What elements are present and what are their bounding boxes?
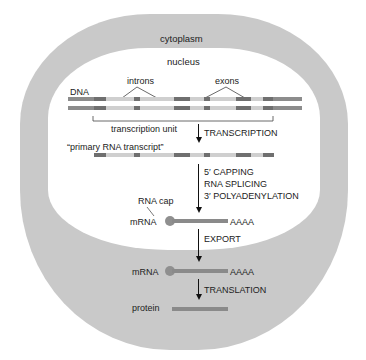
polyA-nucleus-label: AAAA: [230, 217, 254, 227]
arrow-head-icon: [196, 256, 202, 262]
processing-arrow: [198, 164, 199, 208]
rna-cap-label: RNA cap: [138, 196, 174, 206]
primary-rna-transcript: [94, 153, 274, 157]
polyA-cytoplasm-label: AAAA: [230, 267, 254, 277]
mrna-nucleus-label: mRNA: [130, 217, 157, 227]
protein-label: protein: [132, 303, 160, 313]
mrna-cytoplasm-label: mRNA: [132, 267, 159, 277]
export-arrow: [198, 229, 199, 257]
mrna-nucleus: [172, 219, 228, 223]
arrow-head-icon: [196, 137, 202, 143]
translation-step: TRANSLATION: [204, 285, 266, 295]
pointer-lines: [0, 0, 366, 360]
capping-step: 5′ CAPPING: [204, 167, 254, 177]
polyadenylation-step: 3′ POLYADENYLATION: [204, 191, 299, 201]
dna-strand-bottom: [68, 106, 302, 110]
transcription-unit-label: transcription unit: [111, 124, 177, 134]
splicing-step: RNA SPLICING: [204, 179, 267, 189]
arrow-head-icon: [196, 207, 202, 213]
arrow-head-icon: [196, 294, 202, 300]
primary-transcript-label: “primary RNA transcript”: [67, 142, 164, 152]
dna-strand-top: [68, 97, 302, 101]
protein-bar: [172, 307, 228, 311]
mrna-cytoplasm: [172, 269, 228, 273]
export-step: EXPORT: [204, 234, 241, 244]
transcription-arrow: [198, 124, 199, 138]
transcription-step: TRANSCRIPTION: [204, 128, 278, 138]
translation-arrow: [198, 279, 199, 295]
